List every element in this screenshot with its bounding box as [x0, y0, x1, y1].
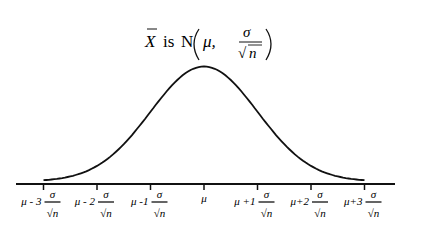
svg-text:μ - 3: μ - 3 — [20, 195, 42, 207]
tick-label: μ+3σ√n — [343, 188, 381, 219]
svg-text:σ: σ — [157, 188, 163, 200]
tick-label: μ+2σ√n — [290, 188, 328, 219]
right-paren — [266, 29, 271, 60]
svg-text:σ: σ — [264, 188, 270, 200]
svg-text:μ +1: μ +1 — [233, 195, 255, 207]
svg-text:μ+2: μ+2 — [290, 195, 310, 207]
left-paren — [194, 29, 199, 60]
title-xbar: X — [144, 32, 156, 51]
tick-label: μ - 2σ√n — [74, 188, 114, 219]
svg-text:σ: σ — [103, 188, 109, 200]
title-N: N — [181, 32, 193, 51]
title-sqrt: √ — [238, 45, 247, 61]
svg-text:√n: √n — [314, 207, 326, 219]
sampling-distribution-diagram: μ - 3σ√nμ - 2σ√nμ -1σ√nμμ +1σ√nμ+2σ√nμ+3… — [0, 0, 421, 233]
title-formula: X is N μ, σ √ n — [144, 24, 271, 61]
svg-text:μ - 2: μ - 2 — [74, 195, 96, 207]
title-n: n — [249, 45, 257, 61]
tick-label: μ +1σ√n — [233, 188, 274, 219]
x-axis-tick-labels: μ - 3σ√nμ - 2σ√nμ -1σ√nμμ +1σ√nμ+2σ√nμ+3… — [20, 188, 381, 219]
svg-text:σ: σ — [371, 188, 377, 200]
svg-text:μ: μ — [200, 192, 207, 204]
svg-text:σ: σ — [50, 188, 56, 200]
svg-text:σ: σ — [317, 188, 323, 200]
title-sigma: σ — [243, 24, 251, 40]
svg-text:√n: √n — [261, 207, 273, 219]
tick-label: μ - 3σ√n — [20, 188, 60, 219]
svg-text:μ -1: μ -1 — [130, 195, 148, 207]
tick-label: μ — [200, 192, 207, 204]
svg-text:√n: √n — [368, 207, 380, 219]
svg-text:√n: √n — [154, 207, 166, 219]
svg-text:μ+3: μ+3 — [343, 195, 363, 207]
svg-text:√n: √n — [47, 207, 59, 219]
svg-text:√n: √n — [100, 207, 112, 219]
title-mu: μ, — [202, 32, 216, 51]
normal-curve — [44, 67, 365, 181]
tick-label: μ -1σ√n — [130, 188, 167, 219]
title-is: is — [163, 32, 174, 51]
